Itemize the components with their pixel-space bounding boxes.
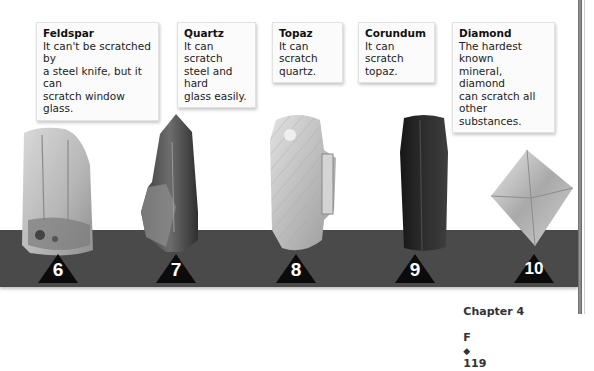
description-line: It can scratch	[365, 40, 429, 65]
page-footer: Chapter 4 F ◆ 119	[448, 292, 524, 371]
diamond-separator-icon: ◆	[463, 346, 470, 356]
mineral-name: Diamond	[459, 27, 549, 40]
hardness-value-10: 10	[514, 259, 554, 279]
description-line: other substances.	[459, 102, 549, 127]
callout-diamond: Diamond The hardest known mineral, diamo…	[452, 22, 555, 133]
description-line: scratch window glass.	[43, 90, 153, 115]
description-line: It can scratch	[279, 40, 337, 65]
description-line: The hardest known	[459, 40, 549, 65]
mineral-name: Feldspar	[43, 27, 153, 40]
description-line: mineral, diamond	[459, 65, 549, 90]
chapter-label: Chapter 4	[463, 305, 524, 318]
hardness-value-7: 7	[156, 259, 196, 281]
description-line: It can scratch	[184, 40, 250, 65]
callout-quartz: Quartz It can scratch steel and hard gla…	[177, 22, 256, 108]
callout-corundum: Corundum It can scratch topaz.	[358, 22, 435, 83]
description-line: steel and hard	[184, 65, 250, 90]
hardness-value-8: 8	[276, 259, 316, 281]
description-line: It can't be scratched by	[43, 40, 153, 65]
hardness-value-9: 9	[395, 259, 435, 281]
description-line: can scratch all	[459, 90, 549, 103]
page-edge-rule-thin	[584, 0, 585, 314]
description-line: a steel knife, but it can	[43, 65, 153, 90]
mineral-name: Quartz	[184, 27, 250, 40]
page-number: 119	[463, 357, 486, 370]
corundum-image	[396, 112, 452, 257]
description-line: quartz.	[279, 65, 337, 78]
hardness-value-6: 6	[38, 259, 78, 281]
description-line: topaz.	[365, 65, 429, 78]
mineral-name: Corundum	[365, 27, 429, 40]
feldspar-image	[20, 125, 100, 260]
callout-topaz: Topaz It can scratch quartz.	[272, 22, 343, 83]
topaz-image	[268, 110, 348, 258]
diamond-image	[487, 148, 579, 248]
section-letter: F	[463, 331, 471, 344]
description-line: glass easily.	[184, 90, 250, 103]
quartz-image	[136, 112, 208, 257]
callout-feldspar: Feldspar It can't be scratched by a stee…	[36, 22, 159, 121]
mineral-name: Topaz	[279, 27, 337, 40]
